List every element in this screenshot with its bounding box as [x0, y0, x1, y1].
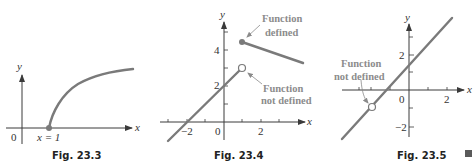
y-tick-label-2: 2: [214, 79, 220, 91]
end-of-example-square-icon: [465, 150, 472, 157]
annotation-not-defined-line1: Function: [341, 58, 381, 69]
y-tick-label-2: 2: [399, 49, 405, 61]
annotation-defined-line1: Function: [262, 13, 302, 24]
pointer-not-defined: [248, 73, 262, 84]
x-tick-label-0: 0: [399, 93, 405, 105]
left-piece: [168, 71, 239, 141]
figure-caption: Fig. 23.4: [214, 150, 263, 161]
figure-23-3: y x 0 x = 1 Fig. 23.3: [6, 60, 140, 161]
annotation-not-defined-line2: not defined: [334, 71, 385, 82]
point-label: x = 1: [36, 131, 60, 143]
origin-label: 0: [11, 131, 17, 143]
y-tick-label-4: 4: [214, 44, 220, 56]
sqrt-curve: [49, 69, 133, 128]
y-axis-label: y: [16, 60, 22, 72]
y-ticks: [409, 37, 414, 127]
y-tick-label-neg2: −2: [395, 121, 407, 133]
annotation-not-defined-line2: not defined: [261, 95, 312, 106]
annotation-defined-line2: defined: [265, 27, 298, 38]
x-axis-label: x: [306, 115, 312, 127]
x-axis-label: x: [466, 83, 472, 95]
figure-caption: Fig. 23.5: [397, 150, 446, 161]
x-tick-label-neg2: −2: [181, 125, 193, 137]
filled-point: [239, 39, 245, 45]
y-ticks: [224, 32, 228, 104]
pointer-defined: [247, 25, 260, 37]
x-tick-label-0: 0: [215, 125, 221, 137]
x-tick-label-2: 2: [444, 93, 450, 105]
pointer-not-defined: [361, 80, 368, 103]
x-axis-label: x: [134, 121, 140, 133]
figure-23-5: y x 0 2 2 −2 Function not defined Fig. 2…: [334, 11, 472, 161]
open-circle: [369, 104, 376, 111]
open-circle: [239, 65, 246, 72]
figures-canvas: y x 0 x = 1 Fig. 23.3: [0, 0, 476, 167]
figure-caption: Fig. 23.3: [52, 150, 101, 161]
annotation-not-defined-line1: Function: [263, 83, 303, 94]
y-axis-label: y: [219, 8, 225, 20]
x-tick-label-2: 2: [258, 125, 264, 137]
figure-23-4: y x −2 0 2 4 2 Function defined Function…: [160, 8, 312, 161]
y-axis-label: y: [404, 11, 410, 23]
right-piece: [242, 42, 303, 63]
